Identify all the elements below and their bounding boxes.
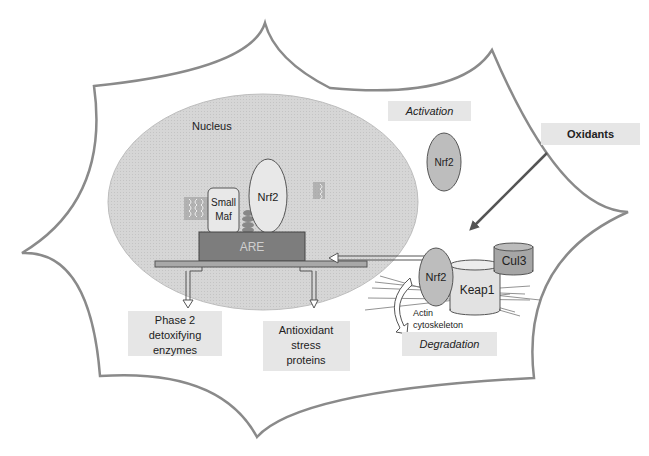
small-maf-label-1: Small <box>211 197 236 208</box>
antioxidant-label-2: stress <box>291 339 321 351</box>
actin-label-2: cytoskeleton <box>413 320 463 330</box>
phase2-label-1: Phase 2 <box>155 314 195 326</box>
keap1-label: Keap1 <box>460 283 495 297</box>
activation-label: Activation <box>405 105 454 117</box>
antioxidant-label-3: proteins <box>286 354 326 366</box>
phase2-label-3: enzymes <box>153 344 198 356</box>
are-label: ARE <box>240 240 265 254</box>
degradation-label: Degradation <box>420 338 480 350</box>
phase2-label-2: detoxifying <box>149 329 202 341</box>
oxidants-label: Oxidants <box>567 128 614 140</box>
nucleus-label: Nucleus <box>192 120 232 132</box>
nrf2-free-label: Nrf2 <box>435 157 454 168</box>
nrf2-nuclear-label: Nrf2 <box>258 191 279 203</box>
small-maf-label-2: Maf <box>215 211 232 222</box>
dna-helix-icon <box>184 197 210 220</box>
actin-label-1: Actin <box>413 308 433 318</box>
dna-helix-icon <box>313 182 325 199</box>
cul3-label: Cul3 <box>502 254 527 268</box>
nrf2-bound-label: Nrf2 <box>426 271 447 283</box>
nrf2-pathway-diagram: Nucleus Small Maf Nrf2 ARE Phase 2 detox… <box>0 0 649 456</box>
antioxidant-label-1: Antioxidant <box>279 324 333 336</box>
